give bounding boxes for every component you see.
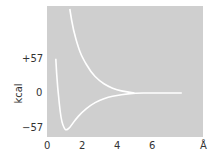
x-tick-0: 0	[44, 141, 50, 151]
curves-svg	[47, 6, 203, 137]
y-tick-minus57: −57	[22, 123, 43, 133]
x-tick-2: 2	[79, 141, 85, 151]
y-axis-label: kcal	[13, 83, 24, 103]
plot-area	[47, 6, 203, 137]
x-tick-4: 4	[114, 141, 120, 151]
bonding-curve	[56, 59, 182, 130]
y-tick-plus57: +57	[22, 54, 43, 64]
x-tick-6: 6	[149, 141, 155, 151]
y-tick-zero: 0	[36, 88, 42, 98]
x-axis-unit-label: Å	[200, 141, 207, 151]
repulsive-curve	[70, 9, 135, 93]
